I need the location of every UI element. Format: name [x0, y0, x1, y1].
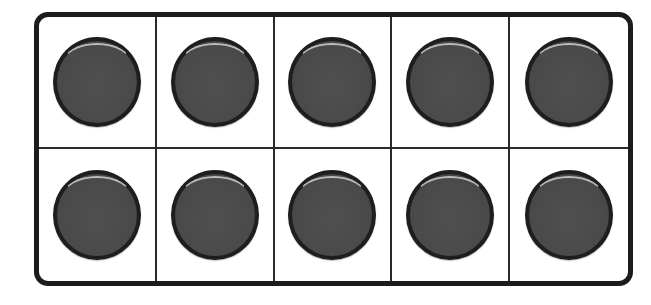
counter-icon — [288, 37, 376, 127]
cell-r1-c5 — [510, 17, 628, 149]
cell-r1-c1 — [39, 17, 157, 149]
cell-r1-c4 — [392, 17, 510, 149]
counter-icon — [53, 170, 141, 260]
ten-frame-grid — [39, 17, 628, 281]
counter-icon — [288, 170, 376, 260]
counter-icon — [406, 37, 494, 127]
counter-icon — [53, 37, 141, 127]
counter-icon — [525, 37, 613, 127]
cell-r2-c5 — [510, 149, 628, 281]
ten-frame — [34, 12, 633, 286]
cell-r1-c2 — [157, 17, 275, 149]
cell-r2-c1 — [39, 149, 157, 281]
cell-r2-c2 — [157, 149, 275, 281]
cell-r2-c4 — [392, 149, 510, 281]
cell-r2-c3 — [275, 149, 393, 281]
counter-icon — [406, 170, 494, 260]
cell-r1-c3 — [275, 17, 393, 149]
counter-icon — [171, 170, 259, 260]
counter-icon — [525, 170, 613, 260]
counter-icon — [171, 37, 259, 127]
